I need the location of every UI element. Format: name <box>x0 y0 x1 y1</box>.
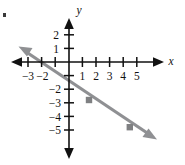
x-tick-label--3: −3 <box>22 70 34 82</box>
x-axis-label: x <box>167 55 174 67</box>
x-tick-label-3: 3 <box>107 70 113 82</box>
y-axis-arrowhead-bottom <box>64 148 74 159</box>
x-tick-label--2: −2 <box>36 70 48 82</box>
x-axis-arrowhead-right <box>153 57 164 67</box>
x-tick-label-2: 2 <box>93 70 99 82</box>
y-tick-label--5: −5 <box>49 124 61 136</box>
y-axis-group: 2 1 −2 −3 −4 −5 y <box>49 4 83 159</box>
y-tick-label--2: −2 <box>49 83 61 95</box>
plotted-point-4-neg4 <box>127 124 133 130</box>
y-axis-arrowhead-top <box>64 18 74 29</box>
linear-function-line <box>26 52 149 134</box>
coordinate-plane-svg: −3 −2 1 2 3 4 5 x 2 1 −2 −3 <box>0 0 185 165</box>
y-tick-label--3: −3 <box>49 97 61 109</box>
x-tick-label-4: 4 <box>120 70 126 82</box>
y-axis-label: y <box>75 4 82 17</box>
figure-corner-mark <box>3 13 6 17</box>
x-tick-label-5: 5 <box>134 70 140 82</box>
x-tick-label-1: 1 <box>80 70 86 82</box>
y-tick-label-1: 1 <box>53 43 59 55</box>
y-tick-label--4: −4 <box>49 111 61 123</box>
plotted-point-1-neg2 <box>86 97 92 103</box>
y-tick-label-2: 2 <box>53 29 59 41</box>
graph-figure: −3 −2 1 2 3 4 5 x 2 1 −2 −3 <box>0 0 185 165</box>
x-axis-arrowhead-left <box>11 57 22 67</box>
